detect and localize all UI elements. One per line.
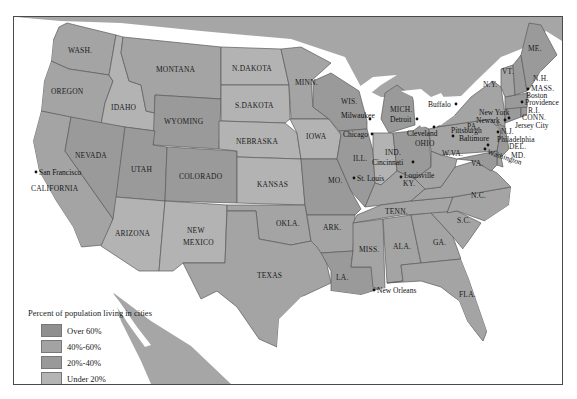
label-sc: S.C. bbox=[457, 216, 471, 225]
label-montana: MONTANA bbox=[156, 65, 196, 74]
label-ark: ARK. bbox=[323, 223, 342, 232]
city-dot-new-orleans bbox=[373, 289, 376, 292]
city-dot-washington bbox=[484, 148, 487, 151]
city-buffalo: Buffalo bbox=[428, 100, 451, 109]
legend-label: Under 20% bbox=[67, 374, 106, 384]
map-frame: WASH. OREGON CALIFORNIA IDAHO NEVADA MON… bbox=[13, 16, 563, 385]
city-dot-louisville bbox=[400, 176, 403, 179]
city-baltimore: Baltimore bbox=[459, 134, 490, 143]
city-dot-cleveland bbox=[433, 126, 436, 129]
city-san-francisco: San Francisco bbox=[39, 168, 82, 177]
legend-label: 20%-40% bbox=[67, 358, 101, 368]
city-dot-pittsburgh bbox=[452, 135, 455, 138]
label-la: LA. bbox=[336, 273, 348, 282]
label-kansas: KANSAS bbox=[257, 180, 288, 189]
city-dot-boston bbox=[527, 88, 530, 91]
label-utah: UTAH bbox=[131, 165, 152, 174]
city-dot-buffalo bbox=[455, 103, 458, 106]
city-jersey-city: Jersey City bbox=[515, 121, 549, 130]
label-va: VA. bbox=[471, 159, 483, 168]
city-boston: Boston bbox=[526, 91, 548, 100]
city-newark: Newark bbox=[476, 116, 500, 125]
label-miss: MISS. bbox=[359, 245, 379, 254]
label-ind: IND. bbox=[385, 148, 401, 157]
label-n-dakota: N.DAKOTA bbox=[232, 64, 272, 73]
label-s-dakota: S.DAKOTA bbox=[235, 101, 274, 110]
label-me: ME. bbox=[528, 44, 542, 53]
label-wis: WIS. bbox=[341, 97, 357, 106]
label-w-va: W.VA. bbox=[442, 149, 463, 158]
city-detroit: Detroit bbox=[390, 115, 412, 124]
label-wash: WASH. bbox=[68, 46, 92, 55]
legend-swatch bbox=[41, 324, 62, 337]
city-dot-cincinnati bbox=[412, 161, 415, 164]
legend-label: 40%-60% bbox=[67, 342, 101, 352]
label-new-mexico-2: MEXICO bbox=[183, 238, 214, 247]
city-dot-providence bbox=[521, 101, 524, 104]
legend-item-under-20: Under 20% bbox=[28, 371, 248, 385]
city-new-orleans: New Orleans bbox=[377, 286, 416, 295]
city-dot-chicago bbox=[371, 133, 374, 136]
label-ill: ILL. bbox=[353, 154, 367, 163]
city-dot-new-york bbox=[508, 117, 511, 120]
legend-title: Percent of population living in cities bbox=[28, 308, 248, 318]
label-vt: VT. bbox=[502, 67, 514, 76]
legend-swatch bbox=[41, 340, 62, 353]
city-cleveland: Cleveland bbox=[407, 129, 438, 138]
label-wyoming: WYOMING bbox=[164, 117, 204, 126]
city-dot-newark bbox=[504, 119, 507, 122]
city-dot-philadelphia bbox=[497, 131, 500, 134]
label-ala: ALA. bbox=[393, 242, 411, 251]
city-st-louis: St. Louis bbox=[357, 174, 384, 183]
label-ohio: OHIO bbox=[415, 139, 435, 148]
label-okla: OKLA. bbox=[276, 219, 300, 228]
legend-item-over-60: Over 60% bbox=[28, 323, 248, 338]
legend-label: Over 60% bbox=[67, 326, 102, 336]
legend-swatch bbox=[41, 372, 62, 385]
city-chicago: Chicago bbox=[343, 130, 368, 139]
city-dot-st-louis bbox=[353, 177, 356, 180]
label-iowa: IOWA bbox=[306, 132, 327, 141]
city-dot-detroit bbox=[416, 118, 419, 121]
map-legend: Percent of population living in cities O… bbox=[28, 308, 248, 385]
label-tenn: TENN. bbox=[385, 207, 408, 216]
label-texas: TEXAS bbox=[257, 271, 282, 280]
label-ga: GA. bbox=[433, 238, 446, 247]
label-nh: N.H. bbox=[533, 74, 548, 83]
label-ky: KY. bbox=[403, 179, 415, 188]
label-idaho: IDAHO bbox=[111, 103, 137, 112]
label-ny: N.Y. bbox=[483, 80, 497, 89]
label-nevada: NEVADA bbox=[75, 151, 107, 160]
label-fla: FLA. bbox=[459, 290, 476, 299]
label-new-mexico: NEW bbox=[187, 226, 205, 235]
city-dot-baltimore bbox=[487, 144, 490, 147]
label-mo: MO. bbox=[328, 176, 343, 185]
label-mich: MICH. bbox=[390, 105, 412, 114]
city-philadelphia: Philadelphia bbox=[497, 135, 535, 144]
label-nc: N.C. bbox=[471, 191, 486, 200]
state-new-mexico[interactable] bbox=[159, 201, 227, 271]
legend-item-20-40: 20%-40% bbox=[28, 355, 248, 370]
label-california: CALIFORNIA bbox=[31, 184, 79, 193]
legend-item-40-60: 40%-60% bbox=[28, 339, 248, 354]
label-colorado: COLORADO bbox=[179, 172, 223, 181]
label-nebraska: NEBRASKA bbox=[236, 137, 278, 146]
legend-swatch bbox=[41, 356, 62, 369]
city-louisville: Louisville bbox=[404, 171, 435, 180]
label-arizona: ARIZONA bbox=[115, 229, 151, 238]
city-milwaukee: Milwaukee bbox=[341, 111, 375, 120]
label-oregon: OREGON bbox=[51, 87, 84, 96]
label-minn: MINN. bbox=[295, 78, 318, 87]
gulf-water bbox=[277, 283, 483, 384]
city-dot-san-francisco bbox=[35, 171, 38, 174]
city-cincinnati: Cincinnati bbox=[372, 158, 403, 167]
label-ri: R.I. bbox=[528, 106, 540, 115]
